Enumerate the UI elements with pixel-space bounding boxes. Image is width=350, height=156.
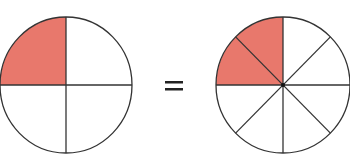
- left-shaded-quarter: [0, 17, 66, 85]
- equals-sign: [165, 81, 183, 91]
- right-circle-eighths: [216, 17, 350, 153]
- fraction-diagram: [0, 0, 350, 156]
- left-circle-quarters: [0, 17, 132, 153]
- right-center-dot: [281, 83, 285, 87]
